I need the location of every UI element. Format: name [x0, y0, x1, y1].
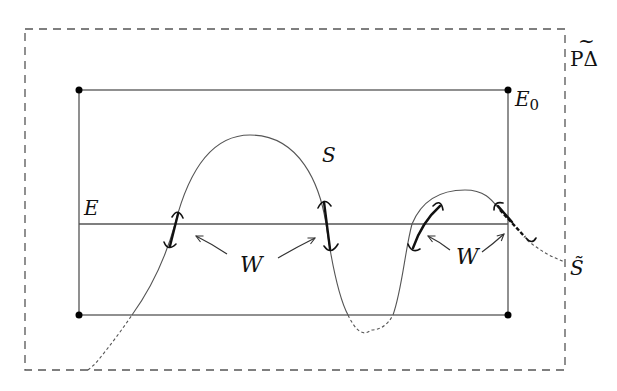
label-s-tilde: S̃ — [570, 256, 584, 280]
label-e0-subscript: 0 — [530, 96, 540, 114]
wedge-segment-4 — [494, 203, 536, 242]
wedge-segment-2 — [318, 201, 338, 250]
arrow-w-right-1 — [428, 236, 450, 250]
inner-rectangle — [79, 90, 508, 315]
arrow-w-left-2 — [278, 238, 315, 258]
label-e0-main: E — [514, 87, 530, 111]
curve-s-main — [132, 135, 348, 315]
curve-s-second-hump — [393, 190, 500, 315]
label-w-right: W — [456, 244, 481, 269]
diagram-canvas: ~ PΔ E0 E S S̃ W W — [0, 0, 617, 391]
wedge-segment-3 — [408, 203, 443, 251]
outer-dashed-frame — [25, 29, 565, 370]
curve-s-tail-left — [88, 315, 132, 370]
label-frame: PΔ — [570, 47, 598, 71]
label-e: E — [83, 196, 99, 220]
label-s: S — [322, 143, 336, 167]
arrow-w-left-1 — [196, 236, 227, 254]
corner-dot-top-right — [505, 87, 512, 94]
label-e0: E0 — [514, 87, 539, 114]
curve-s-tilde-thin — [527, 240, 565, 262]
arrow-w-right-2 — [482, 234, 504, 252]
curve-s-dip — [348, 315, 393, 333]
corner-dot-bottom-left — [76, 312, 83, 319]
corner-dot-top-left — [76, 87, 83, 94]
corner-dot-bottom-right — [505, 312, 512, 319]
label-w-left: W — [240, 252, 265, 277]
wedge-segment-1 — [164, 212, 183, 247]
